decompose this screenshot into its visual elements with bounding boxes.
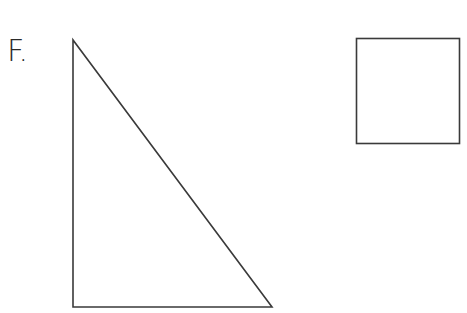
figure-canvas	[0, 0, 467, 313]
right-triangle-shape	[73, 40, 272, 307]
square-shape	[357, 39, 460, 144]
